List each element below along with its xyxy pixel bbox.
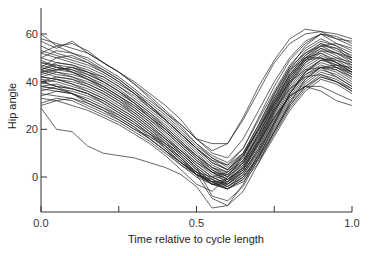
curve-line (41, 65, 352, 184)
hip-angle-chart: 0204060 0.00.51.0 Time relative to cycle… (0, 0, 374, 256)
x-axis-ticks: 0.00.51.0 (33, 206, 359, 229)
curve-line (41, 51, 352, 185)
curve-line (41, 72, 352, 189)
curve-line (41, 60, 352, 182)
x-tick-label: 0.5 (189, 217, 204, 229)
curve-line (41, 58, 352, 180)
curve-line (41, 70, 352, 187)
x-tick-label: 1.0 (344, 217, 359, 229)
curve-line (41, 58, 352, 192)
y-tick-label: 60 (26, 28, 38, 40)
y-tick-label: 0 (32, 171, 38, 183)
y-tick-label: 40 (26, 76, 38, 88)
curve-line (41, 48, 352, 184)
curve-line (41, 46, 352, 182)
x-tick-label: 0.0 (33, 217, 48, 229)
curve-line (41, 67, 352, 186)
curves-group (41, 29, 352, 208)
y-tick-label: 20 (26, 123, 38, 135)
curve-line (41, 34, 352, 165)
curve-line (41, 44, 352, 182)
curve-line (41, 41, 352, 177)
curve-line (41, 67, 352, 184)
y-axis-title: Hip angle (6, 83, 18, 129)
curve-line (41, 63, 352, 182)
x-axis-title: Time relative to cycle length (128, 233, 264, 245)
